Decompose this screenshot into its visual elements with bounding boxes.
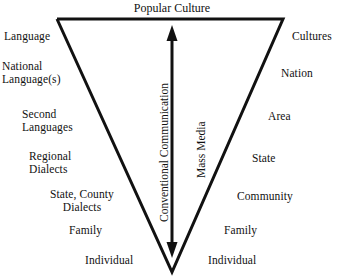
- axis-label-conventional-communication-text: Conventional Communication: [158, 83, 170, 222]
- label-left-second-languages-line2: Languages: [22, 121, 98, 134]
- axis-label-mass-media-text: Mass Media: [195, 121, 207, 178]
- label-left-state-county-dialects-line2: Dialects: [38, 201, 126, 214]
- label-right-community: Community: [237, 190, 293, 203]
- label-left-regional-dialects-line1: Regional: [29, 150, 105, 163]
- label-left-family: Family: [69, 224, 102, 237]
- label-right-state: State: [252, 152, 276, 165]
- label-left-second-languages: Second Languages: [22, 108, 98, 133]
- label-left-national-languages: National Language(s): [2, 60, 86, 85]
- arrow-head-up: [167, 25, 178, 41]
- label-left-national-languages-line1: National: [2, 60, 86, 73]
- label-left-regional-dialects: Regional Dialects: [29, 150, 105, 175]
- label-right-nation: Nation: [281, 67, 313, 80]
- label-left-individual: Individual: [85, 254, 133, 267]
- label-left-state-county-dialects-line1: State, County: [38, 188, 126, 201]
- label-right-area: Area: [268, 110, 291, 123]
- axis-label-mass-media: Mass Media: [195, 178, 252, 190]
- label-left-second-languages-line1: Second: [22, 108, 98, 121]
- label-left-national-languages-line2: Language(s): [2, 73, 86, 86]
- label-right-cultures: Cultures: [292, 30, 332, 43]
- arrow-head-down: [167, 242, 178, 258]
- label-right-individual: Individual: [208, 254, 256, 267]
- label-left-regional-dialects-line2: Dialects: [29, 163, 105, 176]
- label-right-family: Family: [224, 224, 257, 237]
- culture-language-diagram: Popular Culture Conventional Communicati…: [0, 0, 344, 279]
- label-left-state-county-dialects: State, County Dialects: [38, 188, 126, 213]
- label-left-language: Language: [4, 30, 50, 43]
